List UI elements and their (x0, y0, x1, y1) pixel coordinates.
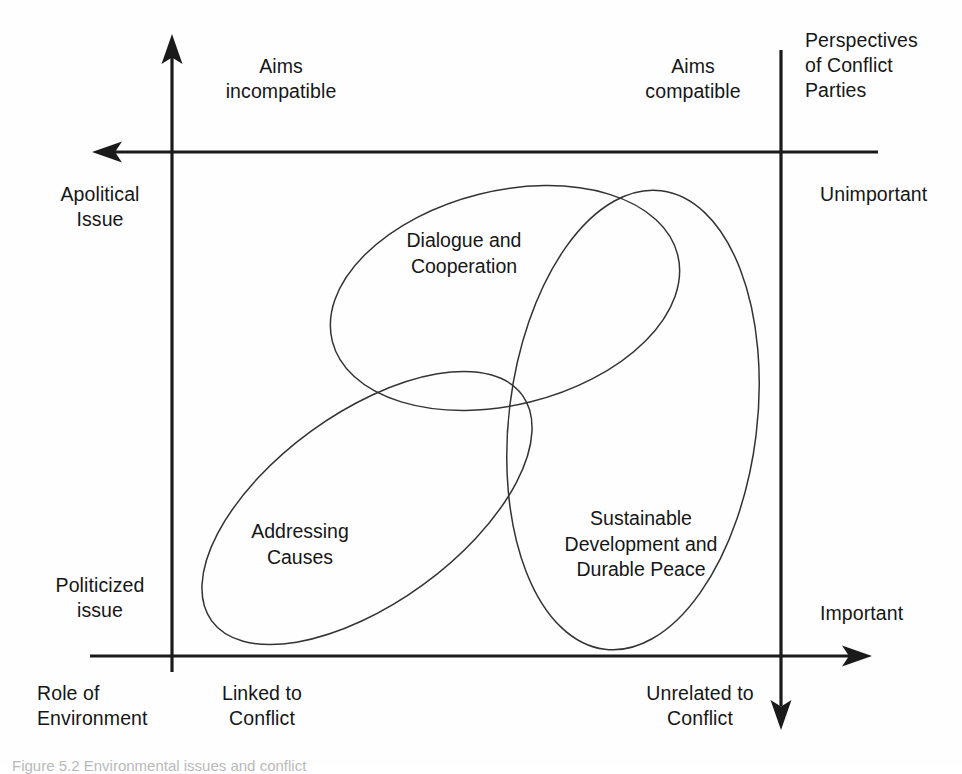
label-unrelated-to-conflict: Unrelated to Conflict (646, 681, 753, 731)
axis-title-perspectives-of-conflict-parties: Perspectives of Conflict Parties (805, 28, 918, 103)
region-label-addressing-causes: Addressing Causes (251, 519, 349, 570)
axis-title-role-of-environment: Role of Environment (37, 681, 148, 731)
label-politicized-issue: Politicized issue (56, 573, 145, 623)
top-horizontal-axis (92, 142, 878, 163)
label-aims-incompatible: Aims incompatible (226, 54, 337, 104)
label-unimportant: Unimportant (820, 182, 927, 207)
figure-caption: Figure 5.2 Environmental issues and conf… (12, 757, 306, 774)
region-label-sustainable-development: Sustainable Development and Durable Peac… (565, 506, 718, 583)
label-important: Important (820, 601, 903, 626)
label-aims-compatible: Aims compatible (645, 54, 740, 104)
bottom-horizontal-axis (90, 646, 872, 667)
region-ellipse-dialogue-cooperation (306, 151, 703, 445)
label-linked-to-conflict: Linked to Conflict (222, 681, 302, 731)
label-apolitical-issue: Apolitical Issue (60, 182, 139, 232)
region-label-dialogue-cooperation: Dialogue and Cooperation (407, 228, 522, 279)
vertical-axis (162, 34, 183, 672)
region-ellipse-sustainable-development (482, 176, 784, 665)
